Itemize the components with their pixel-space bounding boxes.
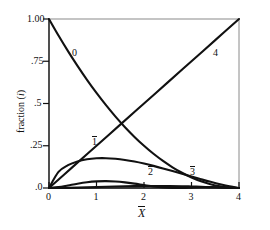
plot-canvas — [0, 0, 270, 230]
x-tick-label-0: 0 — [46, 192, 51, 202]
x-tick-label-3: 3 — [189, 192, 194, 202]
curve-label-3: 3 — [190, 166, 195, 177]
y-tick-label-0.25: .25 — [30, 140, 43, 150]
curve-label-1: 1 — [92, 136, 97, 147]
x-tick-label-2: 2 — [141, 192, 146, 202]
y-axis-title: fraction (i) — [16, 90, 26, 133]
curve-label-3-text: 3 — [190, 166, 195, 177]
y-tick-marks — [43, 19, 49, 188]
curve-label-1-text: 1 — [92, 136, 97, 147]
chart-figure: 1.00 .75 .5 .25 .0 0 1 2 3 4 fraction (i… — [0, 0, 270, 230]
y-axis-title-var: i — [15, 93, 26, 96]
x-axis-title: X — [138, 207, 145, 219]
curve-label-4: 4 — [213, 48, 218, 58]
curve-label-2-text: 2 — [148, 166, 153, 177]
curve-label-0: 0 — [72, 48, 77, 58]
x-tick-label-1: 1 — [94, 192, 99, 202]
y-tick-label-1.00: 1.00 — [27, 14, 45, 24]
y-tick-label-0.75: .75 — [31, 56, 44, 66]
y-tick-label-0.0: .0 — [35, 182, 43, 192]
x-tick-label-4: 4 — [236, 192, 241, 202]
y-axis-title-space — [15, 99, 26, 102]
y-axis-title-main: fraction — [15, 102, 26, 133]
curve-label-2: 2 — [148, 166, 153, 177]
y-axis-title-paren-open: ( — [15, 96, 26, 99]
y-tick-label-0.5: .5 — [34, 98, 42, 108]
data-curves — [49, 19, 239, 188]
y-axis-title-paren-close: ) — [15, 90, 26, 93]
x-axis-title-var: X — [138, 207, 145, 219]
